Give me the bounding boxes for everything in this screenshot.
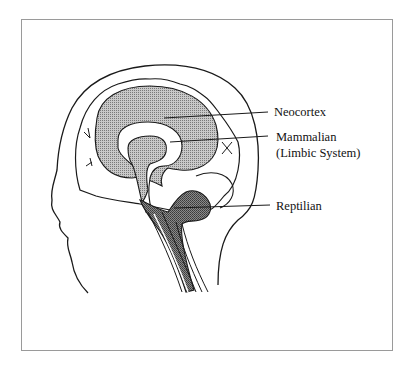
label-limbic-system: (Limbic System) xyxy=(276,146,360,160)
label-mammalian: Mammalian xyxy=(276,130,336,144)
sulcus-left xyxy=(84,128,92,166)
label-reptilian: Reptilian xyxy=(276,199,322,213)
label-neocortex: Neocortex xyxy=(274,105,326,119)
sulcus-right xyxy=(222,142,232,154)
reptilian-region xyxy=(140,191,211,292)
brain-diagram xyxy=(0,0,412,367)
